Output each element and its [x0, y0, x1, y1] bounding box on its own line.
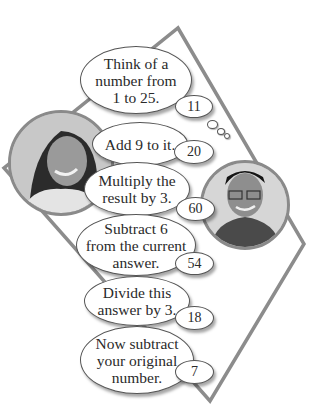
instruction-text: Add 9 to it. — [105, 136, 176, 153]
boy-photo-icon — [203, 163, 287, 247]
instruction-text: Now subtract — [95, 335, 178, 352]
instruction-text: answer. — [86, 254, 187, 271]
instruction-text: from the current — [86, 237, 187, 254]
instruction-text: Think of a — [95, 55, 176, 72]
answer-bubble-3: 60 — [176, 197, 215, 221]
instruction-text: number. — [95, 369, 178, 386]
answer-value: 11 — [187, 99, 200, 115]
instruction-text: answer by 3. — [98, 301, 177, 318]
instruction-text: result by 3. — [98, 189, 175, 206]
answer-value: 54 — [188, 256, 202, 272]
answer-value: 7 — [191, 364, 198, 380]
thought-dot — [207, 120, 218, 129]
answer-bubble-4: 54 — [175, 252, 214, 275]
instruction-text: 1 to 25. — [95, 89, 176, 106]
answer-bubble-6: 7 — [175, 360, 214, 384]
instruction-bubble-3: Multiply the result by 3. — [84, 162, 190, 216]
instruction-text: Subtract 6 — [86, 220, 187, 237]
instruction-text: your original — [95, 352, 178, 369]
answer-bubble-2: 20 — [174, 140, 214, 164]
instruction-text: Divide this — [98, 284, 177, 301]
instruction-text: number from — [95, 72, 176, 89]
answer-value: 18 — [188, 310, 202, 326]
thought-dot — [224, 133, 230, 139]
instruction-bubble-6: Now subtract your original number. — [80, 326, 194, 394]
number-trick-illustration: Think of a number from 1 to 25. 11 Add 9… — [0, 0, 314, 410]
answer-value: 60 — [189, 201, 203, 217]
answer-value: 20 — [187, 144, 201, 160]
instruction-text: Multiply the — [98, 172, 175, 189]
answer-bubble-1: 11 — [175, 95, 213, 118]
answer-bubble-5: 18 — [175, 306, 214, 330]
instruction-bubble-2: Add 9 to it. — [92, 122, 188, 166]
